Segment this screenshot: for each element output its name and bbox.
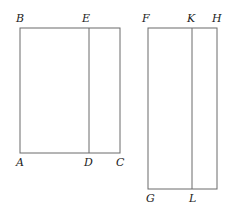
label-a: A	[15, 156, 24, 169]
label-f: F	[141, 12, 150, 25]
label-c: C	[116, 156, 125, 169]
label-h: H	[211, 12, 222, 25]
figure-left: B E A D C	[15, 12, 125, 169]
label-b: B	[15, 12, 24, 25]
figure-right: F K H G L	[141, 12, 222, 205]
rectangle-abc	[20, 28, 120, 153]
label-l: L	[188, 192, 196, 205]
label-k: K	[186, 12, 196, 25]
rectangle-fhg	[148, 28, 217, 189]
label-e: E	[81, 12, 90, 25]
geometry-figure: B E A D C F K H G L	[0, 0, 237, 214]
label-d: D	[83, 156, 93, 169]
label-g: G	[146, 192, 155, 205]
diagram-canvas: B E A D C F K H G L	[0, 0, 237, 214]
